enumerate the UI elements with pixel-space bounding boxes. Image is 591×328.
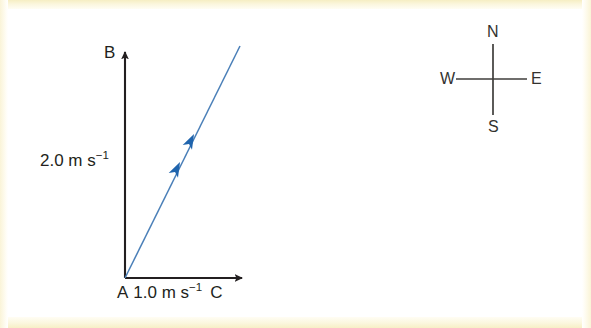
- compass-rose-graphic: [0, 0, 591, 328]
- figure-canvas: B 2.0 m s−1 A1.0 m s−1C N E S W: [0, 0, 591, 328]
- compass-north-label: N: [487, 24, 499, 40]
- compass-west-label: W: [440, 71, 455, 87]
- compass-east-label: E: [531, 71, 542, 87]
- compass-south-label: S: [488, 119, 499, 135]
